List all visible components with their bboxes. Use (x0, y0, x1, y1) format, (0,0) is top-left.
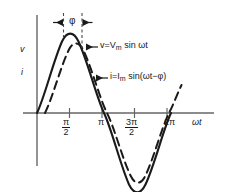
x-tick-label-pi-over-2: π 2 (62, 118, 70, 138)
voltage-eq-amplitude-subscript: m (116, 44, 122, 51)
y-axis-label-current: i (21, 68, 23, 77)
current-equation-label: i=Im sin(ωt−φ) (110, 72, 166, 82)
x-tick-label-pi: π (98, 118, 104, 127)
x-tick-three-pi-over-2-denominator: 2 (125, 127, 138, 137)
current-eq-argument: (ωt−φ) (140, 71, 167, 81)
y-axis-label-voltage: v (20, 45, 25, 54)
phase-angle-symbol: φ (69, 16, 75, 26)
current-eq-amplitude-subscript: m (120, 75, 126, 82)
waveform-figure: v i φ v=Vm sin ωt i=Im sin(ωt−φ) π 2 π 3… (0, 0, 225, 192)
voltage-equation-label: v=Vm sin ωt (100, 41, 148, 51)
x-tick-pi-over-2-numerator: π (62, 118, 70, 127)
voltage-eq-function: sin (124, 40, 136, 50)
x-tick-three-pi-over-2-numerator: 3π (125, 118, 138, 127)
voltage-eq-argument: ωt (138, 40, 148, 50)
x-tick-label-two-pi: 2π (164, 118, 175, 127)
current-eq-function: sin (128, 71, 140, 81)
x-tick-pi-over-2-denominator: 2 (62, 127, 70, 137)
waveform-plot (0, 0, 225, 192)
x-axis-label: ωt (192, 118, 202, 127)
x-tick-label-three-pi-over-2: 3π 2 (125, 118, 138, 138)
